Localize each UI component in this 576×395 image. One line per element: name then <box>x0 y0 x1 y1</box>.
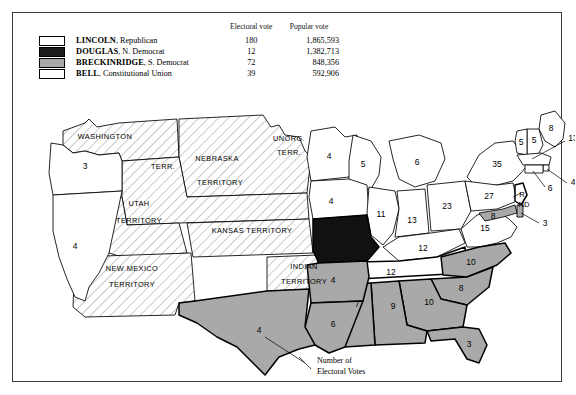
votes-ohio: 23 <box>442 201 452 211</box>
legend-candidate-bell: BELL <box>76 69 99 78</box>
legend-party-breckinridge: , S. Democrat <box>144 58 189 67</box>
legend-swatch-cell-douglas <box>39 46 76 57</box>
votes-delaware: 3 <box>543 218 548 228</box>
legend-swatch-lincoln <box>39 36 65 46</box>
votes-newyork: 35 <box>492 159 502 169</box>
us-map-svg: 3 4 4 4 5 6 11 13 23 12 12 15 35 27 8 5 … <box>27 101 575 391</box>
votes-northcarolina: 10 <box>466 257 476 267</box>
state-shape-iowa <box>309 179 369 219</box>
legend-party-douglas: , N. Democrat <box>118 47 164 56</box>
votes-california: 4 <box>73 241 78 251</box>
votes-maine: 8 <box>549 123 554 133</box>
votes-connecticut: 6 <box>548 183 553 193</box>
state-shape-indiana <box>395 189 429 237</box>
territory-label-indian: INDIAN <box>290 262 317 271</box>
legend-popular-lincoln: 1,865,593 <box>279 35 339 46</box>
votes-massachusetts: 13 <box>568 133 575 143</box>
territory-label-newmexico: NEW MEXICO <box>106 264 158 273</box>
votes-southcarolina: 8 <box>459 283 464 293</box>
votes-kentucky: 12 <box>418 243 428 253</box>
votes-louisiana: 6 <box>331 319 336 329</box>
legend-candidate-lincoln: LINCOLN <box>76 36 116 45</box>
legend-swatch-breckinridge <box>39 58 65 68</box>
legend-row-bell: BELL, Constitutional Union 39 592,906 <box>39 68 339 79</box>
votes-texas: 4 <box>257 325 262 335</box>
territory-kansas <box>187 219 313 257</box>
election-map-page: Electoral vote Popular vote LINCOLN, Rep… <box>0 0 576 395</box>
state-shape-massachusetts <box>517 153 551 165</box>
votes-indiana: 13 <box>407 215 417 225</box>
votes-maryland: 8 <box>491 211 496 221</box>
votes-alabama: 9 <box>391 301 396 311</box>
us-map: 3 4 4 4 5 6 11 13 23 12 12 15 35 27 8 5 … <box>27 101 575 391</box>
territory-label-unorg: UNORG. <box>273 134 305 143</box>
legend-header-row: Electoral vote Popular vote <box>39 21 339 35</box>
legend-swatch-douglas <box>39 47 65 57</box>
annotation-line2: Electoral Votes <box>317 367 365 376</box>
votes-michigan: 6 <box>415 157 420 167</box>
territory-label-nebraska-2: TERRITORY <box>197 178 243 187</box>
legend-swatch-cell-lincoln <box>39 35 76 46</box>
votes-oregon: 3 <box>83 161 88 171</box>
label-newjersey-r: R <box>519 190 525 199</box>
votes-minnesota: 4 <box>327 151 332 161</box>
legend-popular-bell: 592,906 <box>279 68 339 79</box>
legend-popular-breckinridge: 848,356 <box>279 57 339 68</box>
legend-row-lincoln: LINCOLN, Republican 180 1,865,593 <box>39 35 339 46</box>
territory-label-kansas: KANSAS TERRITORY <box>212 226 293 235</box>
territory-label-newmexico-2: TERRITORY <box>109 280 155 289</box>
legend-header-popular: Popular vote <box>279 21 339 35</box>
votes-vermont: 5 <box>519 137 524 147</box>
territory-label-unorg-2: TERR. <box>277 148 301 157</box>
votes-wisconsin: 5 <box>361 159 366 169</box>
legend-candidate-breckinridge: BRECKINRIDGE <box>76 58 144 67</box>
legend-header-name-cell <box>76 21 223 35</box>
votes-tennessee: 12 <box>386 267 396 277</box>
legend-electoral-breckinridge: 72 <box>223 57 279 68</box>
label-newjersey-nd: ND <box>519 200 530 209</box>
territory-label-utah-2: TERRITORY <box>116 216 162 225</box>
votes-virginia: 15 <box>480 223 490 233</box>
legend-swatch-cell-breckinridge <box>39 57 76 68</box>
legend-header-electoral: Electoral vote <box>223 21 279 35</box>
legend-table: Electoral vote Popular vote LINCOLN, Rep… <box>39 21 339 79</box>
territory-label-dakota-terr: TERR. <box>151 162 175 171</box>
legend-name-lincoln: LINCOLN, Republican <box>76 35 223 46</box>
legend-header-swatch-cell <box>39 21 76 35</box>
votes-florida: 3 <box>467 339 472 349</box>
annotation-line1: Number of <box>317 356 352 365</box>
state-shape-texas <box>179 289 315 375</box>
votes-newhampshire: 5 <box>532 135 537 145</box>
votes-rhodeisland: 4 <box>571 177 575 187</box>
territory-label-utah: UTAH <box>128 199 149 208</box>
map-frame: Electoral vote Popular vote LINCOLN, Rep… <box>12 12 562 382</box>
legend-candidate-douglas: DOUGLAS <box>76 47 118 56</box>
legend-electoral-lincoln: 180 <box>223 35 279 46</box>
legend-electoral-douglas: 12 <box>223 46 279 57</box>
legend-swatch-bell <box>39 69 65 79</box>
votes-iowa: 4 <box>329 196 334 206</box>
annotation-tick <box>299 357 311 369</box>
legend-swatch-cell-bell <box>39 68 76 79</box>
votes-pennsylvania: 27 <box>484 191 494 201</box>
territory-label-washington: WASHINGTON <box>78 132 133 141</box>
legend-electoral-bell: 39 <box>223 68 279 79</box>
legend-popular-douglas: 1,382,713 <box>279 46 339 57</box>
legend-name-breckinridge: BRECKINRIDGE, S. Democrat <box>76 57 223 68</box>
votes-georgia: 10 <box>424 297 434 307</box>
leader-line-rhodeisland <box>547 169 567 183</box>
votes-arkansas: 4 <box>331 275 336 285</box>
legend-party-bell: , Constitutional Union <box>99 69 172 78</box>
votes-mississippi: 7 <box>355 299 360 309</box>
territory-label-indian-2: TERRITORY <box>281 277 327 286</box>
legend-row-douglas: DOUGLAS, N. Democrat 12 1,382,713 <box>39 46 339 57</box>
legend-name-bell: BELL, Constitutional Union <box>76 68 223 79</box>
legend: Electoral vote Popular vote LINCOLN, Rep… <box>39 21 339 79</box>
legend-row-breckinridge: BRECKINRIDGE, S. Democrat 72 848,356 <box>39 57 339 68</box>
leader-line-delaware <box>521 213 539 223</box>
state-shape-florida <box>427 327 487 363</box>
territory-label-nebraska: NEBRASKA <box>195 154 238 163</box>
votes-illinois: 11 <box>377 209 386 219</box>
legend-party-lincoln: , Republican <box>116 36 157 45</box>
legend-name-douglas: DOUGLAS, N. Democrat <box>76 46 223 57</box>
